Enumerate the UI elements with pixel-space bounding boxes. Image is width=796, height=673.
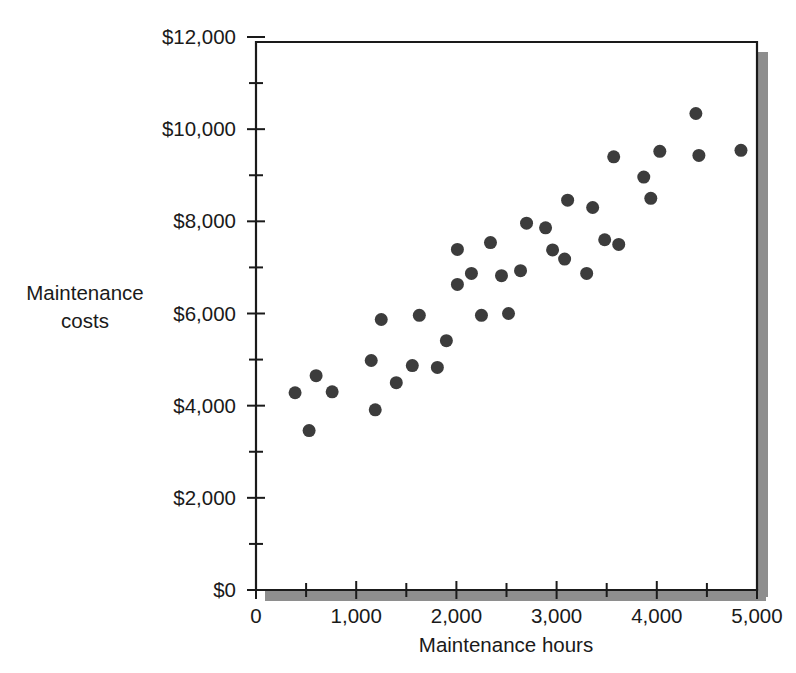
data-point	[303, 424, 316, 437]
data-point	[484, 236, 497, 249]
data-point	[598, 233, 611, 246]
data-point	[406, 359, 419, 372]
data-point	[390, 376, 403, 389]
y-axis-title-line-2: costs	[61, 309, 109, 332]
data-point	[475, 309, 488, 322]
y-axis-tick-labels: $0$2,000$4,000$6,000$8,000$10,000$12,000	[162, 25, 236, 601]
x-axis-tick-labels: 01,0002,0003,0004,0005,000	[250, 604, 782, 627]
data-point	[692, 149, 705, 162]
data-point	[612, 238, 625, 251]
x-tick-label-5000: 5,000	[731, 604, 782, 627]
data-point	[465, 267, 478, 280]
chart-canvas: $0$2,000$4,000$6,000$8,000$10,000$12,000…	[0, 0, 796, 673]
y-tick-label-8000: $8,000	[173, 209, 236, 232]
y-tick-label-10000: $10,000	[162, 117, 236, 140]
data-point	[644, 192, 657, 205]
data-point	[653, 145, 666, 158]
data-point	[375, 313, 388, 326]
data-point	[326, 385, 339, 398]
x-tick-label-1000: 1,000	[331, 604, 382, 627]
data-point	[365, 354, 378, 367]
x-axis-shadow-band	[265, 591, 766, 601]
data-point	[440, 334, 453, 347]
plot-frame-shadow-right	[757, 52, 768, 597]
y-tick-label-0: $0	[213, 578, 236, 601]
x-tick-label-2000: 2,000	[431, 604, 482, 627]
x-tick-label-0: 0	[250, 604, 261, 627]
data-point	[539, 221, 552, 234]
data-point	[451, 243, 464, 256]
data-point	[734, 144, 747, 157]
y-tick-label-4000: $4,000	[173, 394, 236, 417]
data-point	[637, 171, 650, 184]
data-point	[689, 107, 702, 120]
data-point	[520, 217, 533, 230]
data-point	[289, 386, 302, 399]
x-axis-title: Maintenance hours	[419, 633, 593, 656]
x-tick-label-3000: 3,000	[531, 604, 582, 627]
data-point	[369, 403, 382, 416]
data-point	[451, 278, 464, 291]
data-point	[561, 194, 574, 207]
data-point	[580, 267, 593, 280]
data-point	[502, 307, 515, 320]
data-point	[546, 243, 559, 256]
data-point	[607, 150, 620, 163]
data-point	[586, 201, 599, 214]
y-axis-title-line-1: Maintenance	[26, 281, 143, 304]
data-point	[558, 253, 571, 266]
data-point	[413, 309, 426, 322]
y-tick-label-12000: $12,000	[162, 25, 236, 48]
data-point	[310, 369, 323, 382]
y-tick-label-2000: $2,000	[173, 486, 236, 509]
y-tick-label-6000: $6,000	[173, 302, 236, 325]
data-point	[514, 264, 527, 277]
data-point	[431, 361, 444, 374]
data-point	[495, 269, 508, 282]
x-tick-label-4000: 4,000	[631, 604, 682, 627]
scatter-plot-figure: $0$2,000$4,000$6,000$8,000$10,000$12,000…	[0, 0, 796, 673]
